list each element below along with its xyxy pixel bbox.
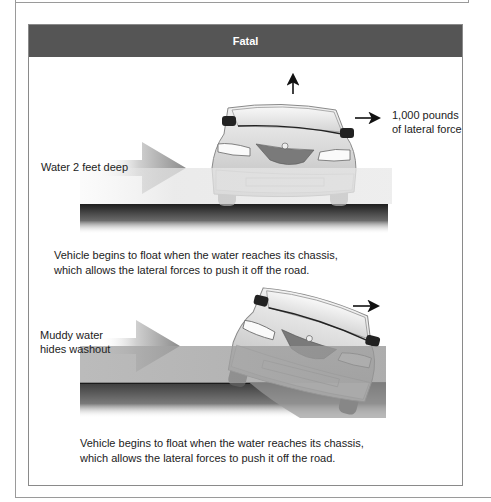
scene1-caption-line2: which allows the lateral forces to push … (54, 263, 414, 278)
scene2-caption-line2: which allows the lateral forces to push … (80, 451, 440, 466)
road-surface (80, 204, 388, 234)
lateral-force-label-line2: of lateral force (392, 122, 462, 136)
scene2-caption: Vehicle begins to float when the water r… (80, 436, 440, 466)
muddy-water-level (80, 346, 386, 383)
muddy-water-label-line1: Muddy water (40, 328, 110, 342)
lateral-force-label-line1: 1,000 pounds (392, 108, 462, 122)
muddy-water-label-line2: hides washout (40, 342, 110, 356)
lateral-force-label: 1,000 pounds of lateral force (392, 108, 462, 136)
muddy-water-label: Muddy water hides washout (40, 328, 110, 356)
scene2-caption-line1: Vehicle begins to float when the water r… (80, 436, 440, 451)
water-depth-label: Water 2 feet deep (41, 160, 128, 174)
scene1-caption: Vehicle begins to float when the water r… (54, 248, 414, 278)
scene1-caption-line1: Vehicle begins to float when the water r… (54, 248, 414, 263)
